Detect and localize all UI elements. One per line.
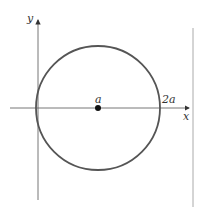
center-label: a: [95, 93, 102, 106]
y-axis-label: y: [26, 12, 34, 25]
diagram-canvas: a 2a x y: [0, 0, 197, 207]
x-axis-label: x: [183, 110, 190, 123]
right-intercept-label: 2a: [161, 93, 176, 106]
